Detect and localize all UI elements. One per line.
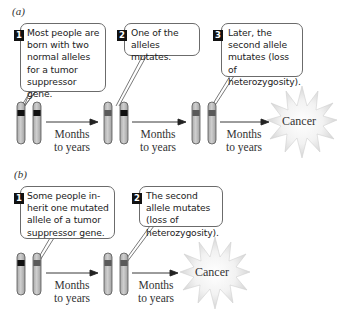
callout-b1-text: Some people in-herit one mutated allele … — [27, 190, 109, 238]
chromosome-pair-b1 — [17, 253, 41, 295]
arrow-a3 — [220, 119, 269, 125]
arrow-label-a2-line1: Months — [132, 128, 184, 141]
arrow-label-b2: Months to years — [130, 279, 182, 305]
chromosome-pair-a1 — [17, 102, 41, 144]
arrow-label-a1-line1: Months — [46, 128, 98, 141]
arrow-label-a1: Months to years — [46, 128, 98, 154]
arrow-label-b1-line2: to years — [46, 292, 98, 305]
arrow-a2 — [132, 119, 186, 125]
step-badge-a2: 2 — [117, 30, 127, 41]
panel-label-b: (b) — [14, 168, 27, 180]
callout-a3: Later, the second allele mutates (loss o… — [221, 23, 303, 77]
step-badge-b1: 1 — [14, 193, 24, 204]
arrow-label-a2: Months to years — [132, 128, 184, 154]
step-badge-b2: 2 — [132, 193, 142, 204]
chromosome-pair-a3 — [192, 102, 216, 144]
chromosome-pair-b2 — [104, 253, 128, 295]
arrow-a1 — [46, 119, 98, 125]
arrow-b2 — [132, 270, 178, 276]
arrow-label-a3: Months to years — [218, 128, 270, 154]
panel-label-a: (a) — [12, 5, 25, 17]
outcome-label-a: Cancer — [282, 114, 316, 129]
callout-a1: Most people are born with two normal all… — [20, 23, 106, 92]
arrow-label-a2-line2: to years — [132, 141, 184, 154]
arrow-label-b1-line1: Months — [46, 279, 98, 292]
callout-a2: One of the alleles mutates. — [124, 23, 200, 56]
arrow-label-b2-line2: to years — [130, 292, 182, 305]
arrow-label-a1-line2: to years — [46, 141, 98, 154]
step-badge-a3: 3 — [213, 30, 223, 41]
chromosome-pair-a2 — [104, 102, 128, 144]
step-badge-a1: 1 — [14, 30, 24, 41]
arrow-label-b2-line1: Months — [130, 279, 182, 292]
arrow-label-a3-line1: Months — [218, 128, 270, 141]
outcome-label-b: Cancer — [195, 265, 229, 280]
arrow-label-b1: Months to years — [46, 279, 98, 305]
callout-b1: Some people in-herit one mutated allele … — [20, 186, 115, 239]
callout-b2: The second allele mutates (loss of heter… — [139, 186, 223, 227]
arrow-label-a3-line2: to years — [218, 141, 270, 154]
callout-b2-text: The second allele mutates (loss of heter… — [146, 190, 219, 238]
arrow-b1 — [46, 270, 98, 276]
callout-a3-text: Later, the second allele mutates (loss o… — [228, 27, 301, 87]
callout-a1-text: Most people are born with two normal all… — [27, 27, 99, 99]
